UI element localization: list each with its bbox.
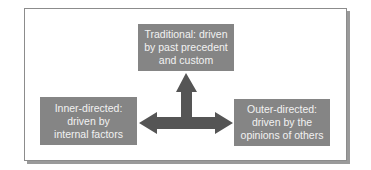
node-inner-line-3: internal factors bbox=[54, 128, 123, 141]
node-traditional-line-1: Traditional: driven bbox=[144, 28, 227, 41]
node-traditional: Traditional: driven by past precedent an… bbox=[138, 24, 234, 71]
node-inner-directed: Inner-directed: driven by internal facto… bbox=[40, 97, 137, 145]
node-outer-line-3: opinions of others bbox=[241, 129, 324, 142]
node-outer-line-1: Outer-directed: bbox=[247, 103, 317, 116]
up-arrow-icon bbox=[176, 73, 197, 118]
node-traditional-line-3: and custom bbox=[159, 54, 213, 67]
node-traditional-line-2: by past precedent bbox=[144, 41, 227, 54]
node-outer-line-2: driven by the bbox=[252, 116, 312, 129]
node-outer-directed: Outer-directed: driven by the opinions o… bbox=[234, 99, 330, 146]
node-inner-line-2: driven by bbox=[67, 115, 110, 128]
node-inner-line-1: Inner-directed: bbox=[55, 102, 123, 115]
